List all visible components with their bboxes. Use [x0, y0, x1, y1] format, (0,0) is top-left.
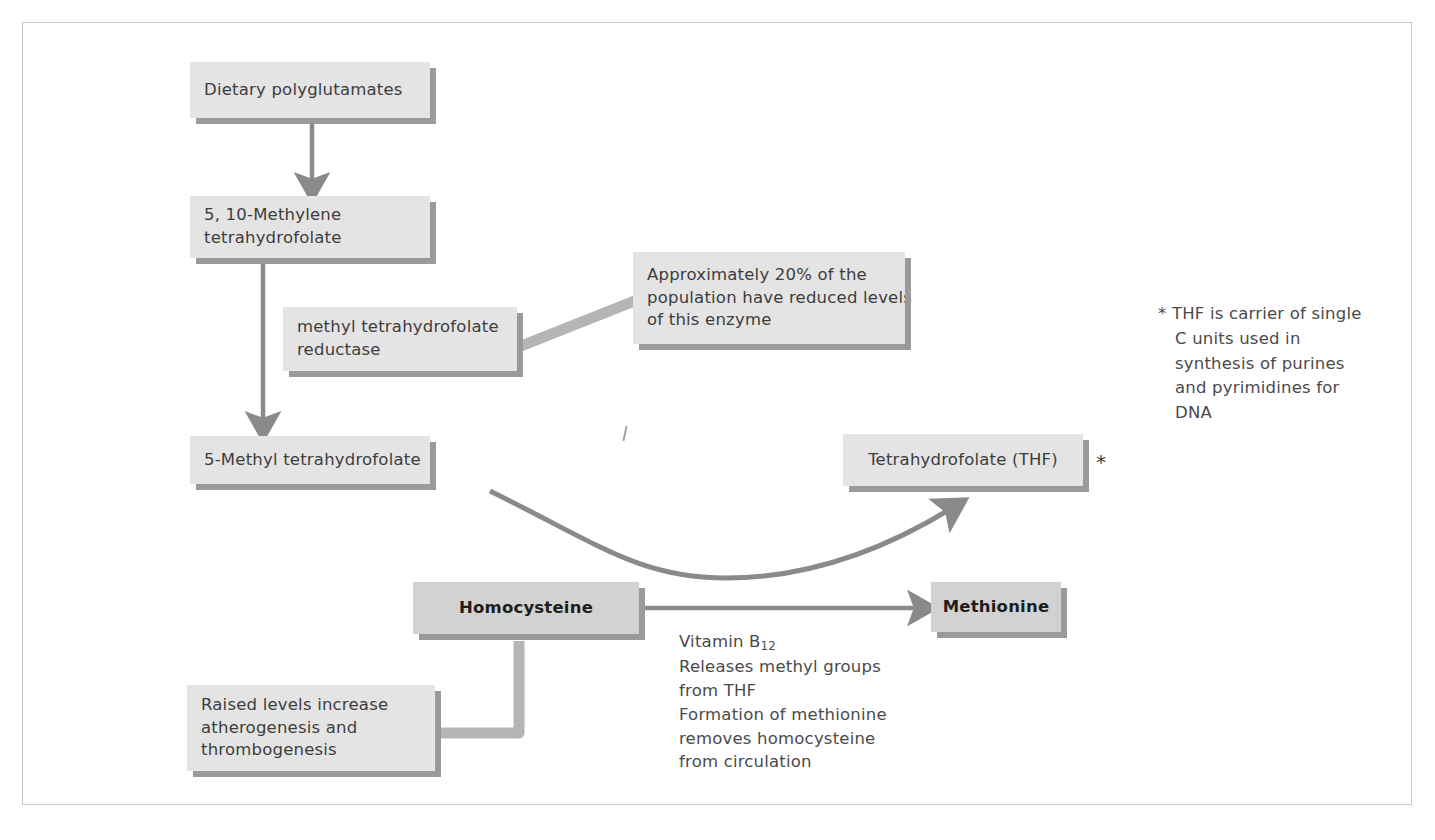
vitamin-b12-subscript: 12 [761, 639, 777, 653]
box-methylene-line1: 5, 10-Methylene [204, 204, 416, 227]
box-population-reduced-enzyme[interactable]: Approximately 20% of the population have… [633, 252, 905, 344]
box-reductase-line1: methyl tetrahydrofolate [297, 316, 503, 339]
box-thf-label: Tetrahydrofolate (THF) [868, 449, 1058, 472]
box-population-line1: Approximately 20% of the [647, 264, 891, 287]
box-raised-levels[interactable]: Raised levels increase atherogenesis and… [187, 685, 435, 771]
vitamin-b12-label: Vitamin B [679, 632, 761, 651]
box-shadow-bottom [196, 118, 436, 124]
box-shadow-bottom [196, 258, 436, 264]
box-population-line2: population have reduced levels [647, 287, 891, 310]
box-shadow-bottom [289, 371, 523, 377]
box-shadow-right [639, 588, 645, 640]
thf-asterisk-marker: * [1096, 452, 1106, 472]
box-shadow-bottom [193, 771, 441, 777]
box-population-line3: of this enzyme [647, 309, 891, 332]
box-shadow-bottom [937, 632, 1067, 638]
vitamin-b12-detail: Releases methyl groups from THF Formatio… [679, 657, 887, 771]
box-raised-levels-line3: thrombogenesis [201, 739, 421, 762]
box-shadow-right [517, 313, 523, 377]
box-methionine[interactable]: Methionine [931, 582, 1061, 632]
box-5-methyl-thf-label: 5-Methyl tetrahydrofolate [204, 449, 416, 472]
box-dietary-polyglutamates-label: Dietary polyglutamates [204, 79, 416, 102]
box-homocysteine[interactable]: Homocysteine [413, 582, 639, 634]
box-dietary-polyglutamates[interactable]: Dietary polyglutamates [190, 62, 430, 118]
box-methyl-tetrahydrofolate-reductase[interactable]: methyl tetrahydrofolate reductase [283, 307, 517, 371]
vitamin-b12-note: Vitamin B12Releases methyl groups from T… [679, 630, 887, 774]
box-shadow-right [430, 202, 436, 264]
box-shadow-right [430, 68, 436, 124]
box-shadow-bottom [639, 344, 911, 350]
box-methionine-label: Methionine [943, 596, 1050, 619]
thf-footnote: * THF is carrier of single C units used … [1158, 302, 1415, 426]
box-shadow-right [1083, 440, 1089, 492]
box-shadow-right [435, 691, 441, 777]
box-tetrahydrofolate-thf[interactable]: Tetrahydrofolate (THF) [843, 434, 1083, 486]
box-raised-levels-line2: atherogenesis and [201, 717, 421, 740]
box-shadow-right [1061, 588, 1067, 638]
box-shadow-bottom [849, 486, 1089, 492]
box-shadow-bottom [419, 634, 645, 640]
box-reductase-line2: reductase [297, 339, 503, 362]
box-5-methyl-tetrahydrofolate[interactable]: 5-Methyl tetrahydrofolate [190, 436, 430, 484]
box-raised-levels-line1: Raised levels increase [201, 694, 421, 717]
box-homocysteine-label: Homocysteine [459, 597, 593, 620]
box-shadow-bottom [196, 484, 436, 490]
box-shadow-right [905, 258, 911, 350]
diagram-canvas: Dietary polyglutamates 5, 10-Methylene t… [0, 0, 1435, 840]
box-methylene-tetrahydrofolate[interactable]: 5, 10-Methylene tetrahydrofolate [190, 196, 430, 258]
box-shadow-right [430, 442, 436, 490]
box-methylene-line2: tetrahydrofolate [204, 227, 416, 250]
